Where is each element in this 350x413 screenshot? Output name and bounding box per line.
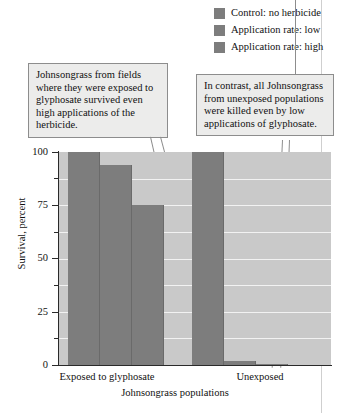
bar-unexposed-control [192,152,224,365]
y-tick-25 [52,312,59,313]
y-tick-12_5 [54,338,59,339]
bar-exposed-control [68,152,100,365]
y-tick-50 [52,258,59,259]
y-axis-label: Survival, percent [16,184,27,284]
y-tick-label-25: 25 [8,307,48,318]
y-tick-label-75: 75 [8,200,48,211]
y-tick-37_5 [54,285,59,286]
x-tick-label-exposed: Exposed to glyphosate [12,371,202,382]
x-tick-label-unexposed: Unexposed [205,371,315,382]
x-axis-label: Johnsongrass populations [0,387,350,398]
y-tick-87_5 [54,178,59,179]
y-tick-75 [52,205,59,206]
y-tick-62_5 [54,232,59,233]
bar-exposed-high [132,205,164,365]
y-tick-label-100: 100 [8,147,48,158]
y-tick-0 [52,365,59,366]
y-tick-100 [52,152,59,153]
plot-area [59,152,331,365]
bar-exposed-low [100,165,132,365]
y-tick-label-0: 0 [8,360,48,371]
x-axis-line [58,365,332,366]
y-tick-label-50: 50 [8,253,48,264]
bar-chart: 100 75 50 25 0 Survival, percent Exposed… [0,0,350,413]
